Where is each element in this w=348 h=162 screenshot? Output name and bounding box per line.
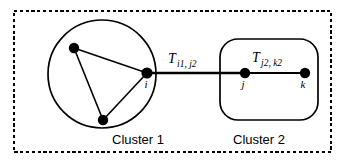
- node-a: [69, 43, 79, 53]
- node-j: [240, 68, 250, 78]
- edge-node-a-node-i: [74, 48, 147, 73]
- cluster-2-caption: Cluster 2: [233, 132, 285, 147]
- trust-label-i1-j2-subscript: i1, j2: [177, 59, 197, 69]
- two-cluster-trust-diagram: i j k T i1, j2 T j2, k2 Cluster 1 Cluste…: [0, 0, 348, 162]
- trust-label-i1-j2-symbol: T: [168, 51, 177, 66]
- figure-container: i j k T i1, j2 T j2, k2 Cluster 1 Cluste…: [0, 0, 348, 162]
- cluster-1-boundary: [48, 20, 156, 128]
- trust-label-j2-k2-symbol: T: [252, 50, 261, 65]
- node-b: [98, 115, 108, 125]
- node-k: [300, 68, 310, 78]
- figure-dashed-border: [14, 11, 331, 152]
- cluster-1-caption: Cluster 1: [112, 132, 164, 147]
- node-label-j: j: [239, 78, 244, 90]
- node-i: [141, 67, 152, 78]
- trust-label-j2-k2-subscript: j2, k2: [259, 58, 282, 68]
- node-label-i: i: [144, 78, 147, 90]
- node-label-k: k: [301, 78, 307, 90]
- edge-node-a-node-b: [74, 48, 103, 120]
